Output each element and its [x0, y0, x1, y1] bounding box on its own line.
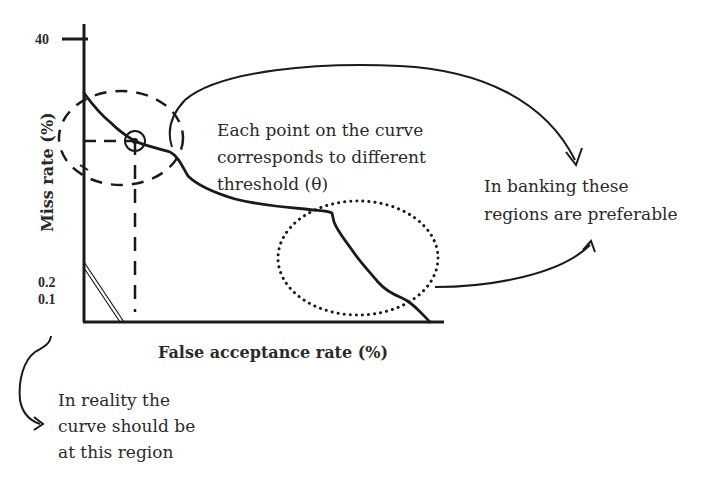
threshold-annotation: Each point on the curve corresponds to d… [217, 120, 426, 194]
arrow-reality-note [20, 336, 51, 424]
svg-text:at this region: at this region [58, 442, 173, 462]
svg-text:regions are preferable: regions are preferable [484, 204, 678, 224]
dashed-region-ellipse [59, 91, 183, 185]
arrow-curve-to-banking [170, 65, 575, 160]
reality-annotation: In reality the curve should be at this r… [58, 390, 195, 462]
y-tick-label-0-1: 0.1 [38, 292, 56, 307]
y-tick-label-0-2: 0.2 [38, 275, 56, 290]
svg-text:threshold (θ): threshold (θ) [217, 174, 328, 194]
operating-point-dot [132, 138, 138, 144]
y-axis-title: Miss rate (%) [38, 112, 57, 232]
svg-text:In reality the: In reality the [58, 390, 170, 410]
svg-text:In banking these: In banking these [484, 176, 629, 196]
svg-text:Each point on the curve: Each point on the curve [217, 120, 423, 140]
axes [62, 24, 444, 322]
x-axis-title: False acceptance rate (%) [158, 343, 388, 362]
svg-text:curve should be: curve should be [58, 416, 195, 436]
arrow-dotted-to-banking [435, 245, 590, 287]
banking-annotation: In banking these regions are preferable [484, 176, 678, 224]
svg-text:corresponds to different: corresponds to different [217, 147, 426, 167]
ideal-curve-double-line [84, 262, 124, 322]
det-curve-diagram: 40 0.2 0.1 Miss rate (%) False acceptanc… [0, 0, 723, 492]
y-tick-label-40: 40 [35, 32, 49, 47]
